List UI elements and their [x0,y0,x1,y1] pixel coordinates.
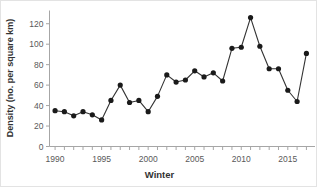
x-axis-title: Winter [1,169,317,180]
y-axis-tick-labels: 020406080100120 [29,19,43,152]
axis-lines [50,11,316,147]
svg-text:1990: 1990 [46,154,65,164]
svg-text:2010: 2010 [232,154,251,164]
svg-text:0: 0 [39,142,44,152]
svg-text:2015: 2015 [278,154,297,164]
svg-text:1995: 1995 [92,154,111,164]
svg-text:80: 80 [34,60,44,70]
plot-area: 020406080100120 199019952000200520102015 [1,1,317,187]
axis-tick-marks [46,24,306,150]
svg-text:20: 20 [34,121,44,131]
x-axis-tick-labels: 199019952000200520102015 [46,154,298,164]
svg-text:40: 40 [34,101,44,111]
svg-text:100: 100 [29,39,43,49]
svg-text:2000: 2000 [139,154,158,164]
svg-text:60: 60 [34,80,44,90]
density-line-chart: Density (no. per square km) 020406080100… [0,0,317,187]
data-point-markers [52,15,309,123]
svg-text:120: 120 [29,19,43,29]
svg-text:2005: 2005 [185,154,204,164]
